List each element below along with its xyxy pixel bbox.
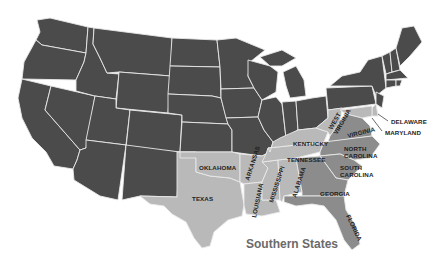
state-rhode-island	[396, 80, 402, 86]
label-maryland: MARYLAND	[385, 129, 421, 136]
state-wyoming	[116, 72, 171, 113]
state-montana	[93, 28, 172, 76]
state-maine	[396, 26, 422, 66]
label-north-carolina-line1: NORTH	[344, 145, 367, 152]
label-texas: TEXAS	[192, 195, 213, 202]
state-south-dakota	[168, 66, 221, 98]
state-north-dakota	[170, 38, 220, 67]
label-south-carolina-line2: CAROLINA	[340, 171, 374, 178]
label-north-carolina-line2: CAROLINA	[344, 152, 378, 159]
label-oklahoma: OKLAHOMA	[199, 164, 237, 171]
us-map: TEXAS OKLAHOMA ARKANSAS LOUISIANA MISSIS…	[0, 0, 440, 268]
delaware-leader-line	[378, 114, 388, 121]
map-caption: Southern States	[246, 237, 338, 251]
label-kentucky: KENTUCKY	[293, 140, 329, 147]
state-new-jersey	[376, 92, 384, 108]
state-michigan-upper	[260, 50, 296, 66]
us-map-svg: TEXAS OKLAHOMA ARKANSAS LOUISIANA MISSIS…	[0, 0, 440, 268]
state-connecticut	[386, 80, 396, 88]
label-tennessee: TENNESSEE	[287, 156, 325, 163]
state-delaware	[372, 104, 378, 116]
label-delaware: DELAWARE	[391, 118, 427, 125]
state-iowa	[221, 88, 262, 118]
state-michigan	[283, 66, 306, 98]
state-kansas	[180, 122, 232, 152]
label-georgia: GEORGIA	[320, 190, 350, 197]
state-new-mexico	[122, 145, 180, 200]
label-south-carolina-line1: SOUTH	[340, 164, 363, 171]
